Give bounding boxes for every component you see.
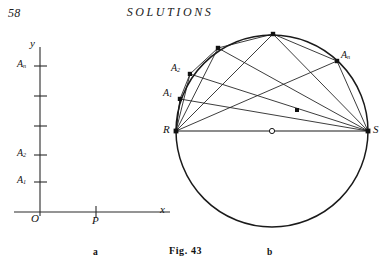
chord-R-A4: [176, 34, 273, 131]
figure-caption: Fig. 43: [169, 245, 202, 256]
circle-center-dot: [269, 128, 274, 133]
vertex-A1: [178, 97, 182, 101]
figure-drawing-layer: [0, 0, 392, 268]
y-axis-label: y: [30, 38, 35, 49]
chord-R-A2: [176, 74, 190, 131]
point-r-label: R: [163, 124, 170, 135]
vertex-A4: [271, 32, 275, 36]
point-s-label: S: [373, 124, 379, 135]
point-a1-label: A1: [163, 88, 172, 99]
chord-A4-An: [273, 34, 337, 61]
vertex-An: [335, 59, 339, 63]
chord-S-A2: [190, 74, 368, 131]
panel-b-caption: b: [267, 247, 272, 257]
vertex-A2: [188, 72, 192, 76]
chord-S-An: [337, 61, 368, 131]
chord-A2-A3: [190, 48, 218, 74]
origin-label: O: [31, 213, 39, 224]
vertex-markers: [174, 32, 371, 134]
panel-a-caption: a: [93, 247, 98, 257]
point-p-label: P: [92, 215, 99, 226]
chord-R-A3: [176, 48, 218, 131]
chord-R-An: [176, 61, 337, 131]
panel-b-circle-figure: [174, 32, 371, 227]
x-axis-label: x: [160, 204, 165, 215]
point-an-label: An: [341, 50, 350, 61]
vertex-midpoint-marker: [295, 108, 299, 112]
chord-lines: [176, 34, 368, 131]
vertex-S: [366, 129, 371, 134]
chord-A3-A4: [218, 34, 273, 48]
point-a2-label: A2: [171, 63, 180, 74]
vertex-R: [174, 129, 179, 134]
vertex-A3: [216, 46, 220, 50]
y-tick-label-an: An: [17, 59, 26, 70]
panel-a-axes: [14, 47, 170, 218]
y-tick-label-a1: A1: [17, 175, 26, 186]
figure-page: 58 SOLUTIONS: [0, 0, 392, 268]
y-tick-label-a2: A2: [17, 148, 26, 159]
